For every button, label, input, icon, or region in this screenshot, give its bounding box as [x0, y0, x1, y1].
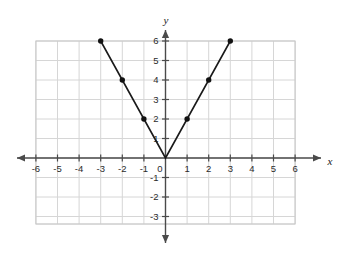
arrow-up-icon: [162, 30, 169, 38]
x-axis-tick-label: -2: [118, 163, 126, 174]
y-axis-tick-label: 3: [153, 94, 158, 105]
data-point: [184, 116, 189, 121]
x-axis-tick-label: 6: [292, 163, 297, 174]
tick-labels: -6-5-4-3-2-10123456654321-1-2-3: [32, 35, 298, 222]
data-point: [120, 77, 125, 82]
y-axis-tick-label: 6: [153, 35, 158, 46]
y-axis-tick-label: 2: [153, 113, 158, 124]
x-axis-label: x: [327, 155, 333, 167]
axes: [17, 30, 321, 243]
y-axis-tick-label: 5: [153, 55, 158, 66]
y-axis-tick-label: -1: [150, 172, 158, 183]
y-axis-tick-label: -3: [150, 211, 158, 222]
coordinate-plane-graph: -6-5-4-3-2-10123456654321-1-2-3 x y: [0, 0, 343, 256]
x-axis-tick-label: 3: [228, 163, 233, 174]
data-point: [206, 77, 211, 82]
x-axis-tick-label: 2: [206, 163, 211, 174]
arrow-left-icon: [17, 154, 25, 161]
graph-canvas: -6-5-4-3-2-10123456654321-1-2-3 x y: [0, 0, 343, 256]
x-axis-tick-label: -5: [53, 163, 61, 174]
x-axis-tick-label: 4: [249, 163, 254, 174]
arrow-right-icon: [313, 154, 321, 161]
data-point: [228, 38, 233, 43]
x-axis-tick-label: -6: [32, 163, 40, 174]
y-axis-tick-label: -2: [150, 191, 158, 202]
x-axis-tick-label: 1: [184, 163, 189, 174]
data-point: [98, 38, 103, 43]
y-axis-tick-label: 4: [153, 74, 158, 85]
data-point: [141, 116, 146, 121]
x-axis-tick-label: -1: [140, 163, 148, 174]
y-axis-label: y: [163, 14, 169, 26]
x-axis-tick-label: -4: [75, 163, 83, 174]
x-axis-tick-label: -3: [96, 163, 104, 174]
x-axis-tick-label: 5: [271, 163, 276, 174]
arrow-down-icon: [162, 235, 169, 243]
